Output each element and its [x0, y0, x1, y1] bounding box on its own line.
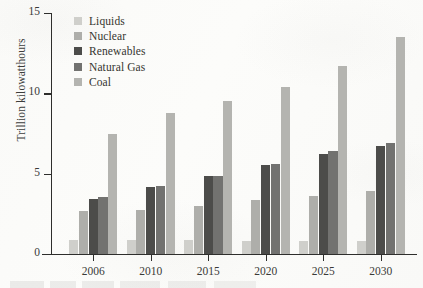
bar — [309, 196, 318, 254]
x-tick — [323, 254, 324, 261]
bar-group — [357, 13, 405, 254]
bar — [156, 186, 165, 254]
y-tick-label: 5 — [34, 166, 40, 178]
legend-label: Liquids — [89, 15, 125, 27]
bar — [281, 87, 290, 254]
x-tick — [93, 254, 94, 261]
legend-item-natural-gas: Natural Gas — [74, 59, 146, 74]
bar — [319, 154, 328, 254]
bar — [108, 134, 117, 254]
bar — [184, 240, 193, 254]
y-tick: 5 — [44, 174, 51, 175]
x-tick — [208, 254, 209, 261]
bar — [328, 151, 337, 254]
page-bleed-text — [10, 281, 310, 288]
legend-swatch-icon — [74, 47, 82, 55]
y-tick-label: 0 — [34, 246, 40, 258]
bar — [396, 37, 405, 254]
legend-label: Coal — [89, 76, 111, 88]
y-tick: 15 — [44, 13, 51, 14]
bar-group — [242, 13, 290, 254]
bar — [366, 191, 375, 254]
x-tick — [266, 254, 267, 261]
bar — [338, 66, 347, 254]
bar — [299, 241, 308, 254]
y-tick-label: 15 — [29, 5, 41, 17]
bar — [146, 187, 155, 254]
bar-group — [184, 13, 232, 254]
bar — [376, 146, 385, 254]
chart-page: Trillion kilowatthours 051015 2006201020… — [0, 0, 423, 288]
bar — [251, 200, 260, 254]
x-tick-label: 2025 — [293, 265, 353, 277]
bar — [69, 240, 78, 254]
y-axis-title: Trillion kilowatthours — [15, 5, 27, 175]
x-tick — [151, 254, 152, 261]
bar — [223, 101, 232, 254]
bar — [98, 197, 107, 254]
legend-item-coal: Coal — [74, 74, 146, 89]
legend-item-nuclear: Nuclear — [74, 28, 146, 43]
x-tick-label: 2030 — [351, 265, 411, 277]
bar — [357, 241, 366, 254]
bar — [166, 113, 175, 254]
bar — [136, 210, 145, 254]
bar — [79, 211, 88, 254]
legend-swatch-icon — [74, 78, 82, 86]
legend-label: Nuclear — [89, 30, 126, 42]
x-tick-label: 2010 — [121, 265, 181, 277]
y-tick: 0 — [44, 254, 51, 255]
x-tick-label: 2006 — [63, 265, 123, 277]
x-axis-line — [42, 254, 417, 255]
bar — [261, 165, 270, 254]
y-tick-label: 10 — [29, 85, 41, 97]
bar — [386, 143, 395, 254]
legend-swatch-icon — [74, 17, 82, 25]
legend-item-renewables: Renewables — [74, 44, 146, 59]
y-axis-line — [51, 13, 52, 254]
bar — [127, 240, 136, 254]
y-tick: 10 — [44, 93, 51, 94]
x-tick-label: 2020 — [236, 265, 296, 277]
x-tick-label: 2015 — [178, 265, 238, 277]
bar — [89, 199, 98, 254]
legend-label: Natural Gas — [89, 61, 145, 73]
bar-group — [299, 13, 347, 254]
legend: LiquidsNuclearRenewablesNatural GasCoal — [74, 13, 146, 89]
bar — [242, 241, 251, 254]
bar — [213, 176, 222, 254]
x-tick — [381, 254, 382, 261]
bar — [271, 164, 280, 254]
legend-label: Renewables — [89, 45, 146, 57]
bar — [204, 176, 213, 254]
legend-swatch-icon — [74, 63, 82, 71]
legend-swatch-icon — [74, 32, 82, 40]
legend-item-liquids: Liquids — [74, 13, 146, 28]
bar — [194, 206, 203, 254]
